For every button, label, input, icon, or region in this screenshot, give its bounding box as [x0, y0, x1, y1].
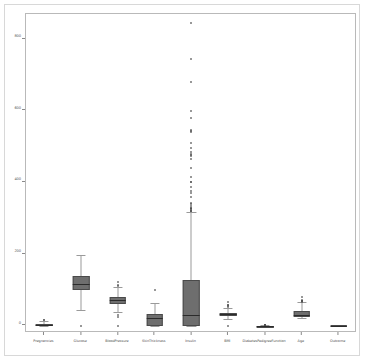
median-line [220, 314, 237, 315]
x-tick-mark [43, 332, 44, 335]
outlier-point [190, 176, 192, 178]
x-tick: Glucose [74, 333, 87, 343]
x-tick-label: Outcome [330, 339, 345, 343]
whisker-high [154, 303, 155, 314]
box-plot-pregnancies [26, 14, 63, 331]
whisker-low [81, 290, 82, 310]
outlier-point [190, 22, 192, 24]
cap-low [77, 310, 86, 311]
outlier-point [190, 181, 192, 183]
x-tick-label: BMI [224, 339, 230, 343]
outlier-point [190, 110, 192, 112]
x-tick-label: DiabetesPedigreeFunction [243, 339, 286, 343]
x-tick-label: Insulin [185, 339, 196, 343]
outlier-point [80, 325, 82, 327]
x-axis: PregnanciesGlucoseBloodPressureSkinThick… [25, 333, 356, 355]
outlier-point [190, 58, 192, 60]
y-tick-label: 600 [14, 106, 21, 110]
x-tick: Age [298, 333, 304, 343]
outlier-point [190, 210, 192, 212]
cap-low [224, 319, 233, 320]
y-tick-label: 400 [14, 177, 21, 181]
whisker-high [117, 287, 118, 297]
outlier-point [227, 304, 229, 306]
median-line [110, 300, 127, 301]
x-tick: Outcome [330, 333, 345, 343]
box-plot-age [283, 14, 320, 331]
outlier-point [190, 155, 192, 157]
whisker-high [191, 212, 192, 280]
x-tick-mark [191, 332, 192, 335]
x-tick-label: Pregnancies [33, 339, 53, 343]
median-line [330, 326, 347, 327]
x-tick-label: BloodPressure [105, 339, 128, 343]
plot-area [26, 14, 355, 331]
outlier-point [190, 81, 192, 83]
outlier-point [43, 319, 45, 321]
outlier-point [117, 316, 119, 318]
x-tick-label: Age [298, 339, 304, 343]
outlier-point [190, 147, 192, 149]
x-tick: BloodPressure [105, 333, 128, 343]
x-tick: Insulin [185, 333, 196, 343]
x-tick: DiabetesPedigreeFunction [243, 333, 286, 343]
outlier-point [190, 117, 192, 119]
cap-high [77, 255, 86, 256]
outlier-point [117, 284, 119, 286]
x-tick: Pregnancies [33, 333, 53, 343]
box-plot-outcome [320, 14, 357, 331]
y-axis: 0200400600800 [0, 13, 25, 333]
whisker-low [117, 304, 118, 313]
box-plot-diabetespedigreefunction [247, 14, 284, 331]
outlier-point [190, 142, 192, 144]
median-line [294, 315, 311, 316]
outlier-point [301, 299, 303, 301]
outlier-point [264, 324, 266, 326]
x-tick-mark [338, 332, 339, 335]
x-tick-mark [301, 332, 302, 335]
x-tick-mark [154, 332, 155, 335]
outlier-point [154, 289, 156, 291]
outlier-point [190, 196, 192, 198]
x-tick-label: Glucose [74, 339, 87, 343]
box-plot-bmi [210, 14, 247, 331]
x-tick: SkinThickness [142, 333, 165, 343]
whisker-high [81, 255, 82, 276]
median-line [183, 315, 200, 316]
outlier-point [190, 192, 192, 194]
box-plot-bloodpressure [100, 14, 137, 331]
plot-axes [25, 13, 356, 332]
cap-low [187, 326, 196, 327]
outlier-point [190, 167, 192, 169]
box-plot-glucose [63, 14, 100, 331]
cap-low [40, 326, 49, 327]
y-tick-label: 800 [14, 34, 21, 38]
outlier-point [227, 301, 229, 303]
x-tick-mark [117, 332, 118, 335]
cap-low [297, 318, 306, 319]
median-line [36, 325, 53, 326]
outlier-point [227, 325, 229, 327]
y-tick-label: 0 [19, 321, 21, 325]
iqr-box [183, 280, 200, 326]
x-tick-mark [264, 332, 265, 335]
x-tick-label: SkinThickness [142, 339, 165, 343]
x-tick-mark [227, 332, 228, 335]
cap-low [150, 326, 159, 327]
outlier-point [117, 325, 119, 327]
cap-high [113, 287, 122, 288]
median-line [73, 284, 90, 285]
outlier-point [190, 158, 192, 160]
cap-low [113, 312, 122, 313]
outlier-point [190, 131, 192, 133]
boxplot-figure: 0200400600800 PregnanciesGlucoseBloodPre… [0, 0, 365, 363]
outlier-point [190, 186, 192, 188]
cap-high [150, 303, 159, 304]
outlier-point [117, 314, 119, 316]
cap-high [224, 308, 233, 309]
iqr-box [146, 314, 163, 325]
x-tick: BMI [224, 333, 230, 343]
y-tick-label: 200 [14, 249, 21, 253]
outlier-point [301, 296, 303, 298]
box-plot-skinthickness [136, 14, 173, 331]
